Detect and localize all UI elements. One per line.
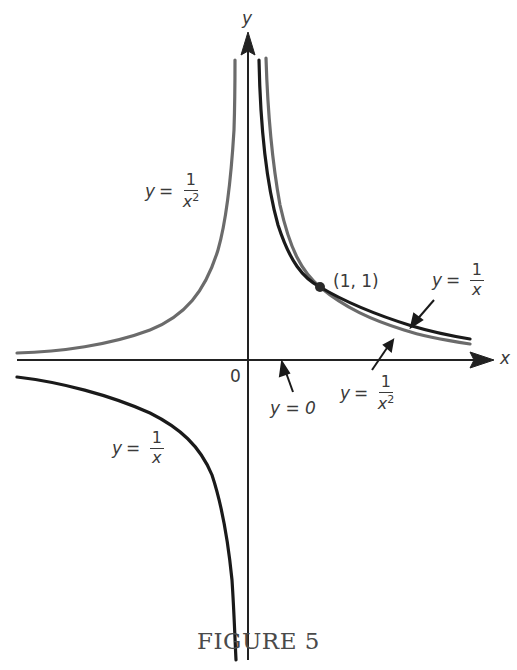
curve-recip-squared (17, 58, 470, 353)
label-recip-right: y= 1 x (432, 262, 484, 299)
numerator: 1 (150, 430, 164, 449)
exponent: 2 (387, 393, 394, 406)
point-label: (1, 1) (333, 273, 379, 290)
recip-squared-pointer (372, 345, 389, 370)
x-axis-label: x (500, 350, 510, 367)
label-eq: = (159, 181, 173, 201)
label-recip-left: y= 1 x (112, 430, 164, 467)
label-lhs: y (112, 438, 122, 458)
denominator: x (152, 449, 161, 467)
y-axis-arrowhead-icon (241, 32, 255, 55)
label-lhs: y (432, 270, 442, 290)
curve-recip-squared-right (266, 58, 470, 344)
fraction: 1 x2 (183, 172, 199, 211)
numerator: 1 (379, 374, 393, 393)
denominator: x2 (378, 393, 394, 413)
label-eq: = (126, 438, 140, 458)
label-eq: = (446, 270, 460, 290)
label-eq: = (354, 383, 368, 403)
denominator: x2 (183, 191, 199, 211)
numerator: 1 (184, 172, 198, 191)
label-recip-squared-left: y= 1 x2 (145, 172, 199, 211)
curve-recip-left (17, 377, 236, 660)
fraction: 1 x (470, 262, 484, 299)
fraction: 1 x (150, 430, 164, 467)
figure-plot (0, 0, 517, 670)
asymptote-pointer-arrowhead-icon (280, 362, 289, 376)
fraction: 1 x2 (378, 374, 394, 413)
label-recip-squared-right: y= 1 x2 (340, 374, 394, 413)
y-axis-label: y (242, 10, 252, 27)
label-lhs: y (340, 383, 350, 403)
origin-label: 0 (230, 368, 241, 385)
exponent: 2 (192, 191, 199, 204)
figure-caption: FIGURE 5 (0, 628, 517, 654)
label-asymptote: y = 0 (270, 400, 316, 417)
curve-recip-squared-left (17, 60, 235, 353)
denominator: x (472, 281, 481, 299)
numerator: 1 (470, 262, 484, 281)
denominator-base: x (183, 192, 192, 211)
x-axis-arrowhead-icon (470, 352, 494, 368)
denominator-base: x (378, 394, 387, 413)
point-1-1-marker (315, 282, 325, 292)
label-lhs: y (145, 181, 155, 201)
